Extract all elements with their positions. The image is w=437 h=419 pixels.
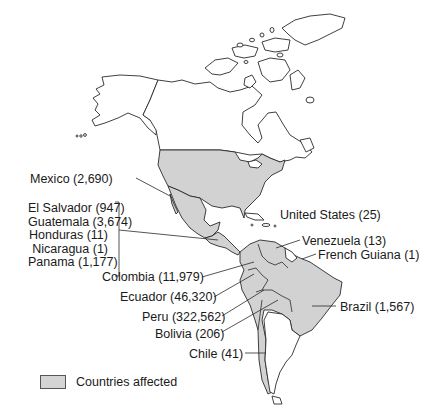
label-peru: Peru (322,562) [142,310,225,324]
label-brazil: Brazil (1,567) [340,300,414,314]
label-venezuela: Venezuela (13) [302,234,386,248]
label-honduras: Honduras (11) [28,229,108,243]
label-colombia: Colombia (11,979) [102,270,204,284]
label-united-states: United States (25) [280,208,381,222]
label-guatemala: Guatemala (3,674) [28,216,108,230]
label-el-salvador: El Salvador (947) [28,202,108,216]
central-america-label-group: El Salvador (947) Guatemala (3,674) Hond… [28,202,108,270]
label-bolivia: Bolivia (206) [155,327,224,341]
label-panama: Panama (1,177) [28,256,108,270]
label-ecuador: Ecuador (46,320) [120,290,217,304]
label-nicaragua: Nicaragua (1) [28,243,108,257]
label-chile: Chile (41) [189,347,243,361]
legend: Countries affected [40,375,177,389]
label-mexico: Mexico (2,690) [30,172,113,186]
label-french-guiana: French Guiana (1) [318,248,419,262]
legend-label: Countries affected [76,375,177,389]
legend-swatch-affected [40,375,66,389]
south-america-affected [240,240,342,394]
